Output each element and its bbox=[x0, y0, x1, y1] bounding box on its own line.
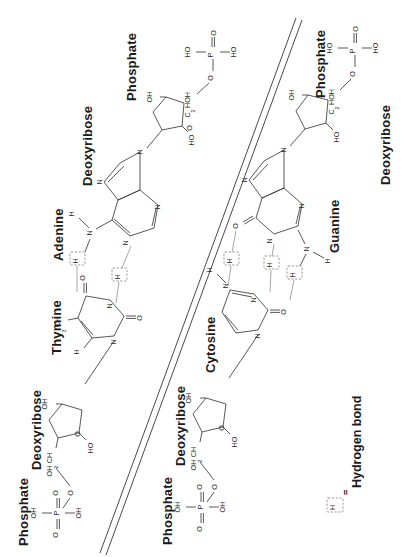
svg-text:OH: OH bbox=[74, 508, 83, 519]
svg-text:N: N bbox=[95, 179, 104, 184]
svg-text:H: H bbox=[265, 262, 274, 267]
svg-text:C: C bbox=[327, 109, 336, 114]
phosphate-group-top-left: O P HO HO O HOH 2 C bbox=[183, 30, 238, 118]
svg-text:P: P bbox=[206, 52, 215, 57]
phosphate-group-bottom-left: O P O O OH OH bbox=[29, 490, 83, 538]
label-phosphate-bottom-left: Phosphate bbox=[16, 478, 31, 546]
svg-text:N: N bbox=[153, 204, 162, 209]
label-phosphate-top-left: Phosphate bbox=[124, 33, 139, 101]
svg-text:O: O bbox=[66, 490, 75, 496]
svg-text:H: H bbox=[67, 211, 76, 216]
label-adenine: Adenine bbox=[51, 208, 66, 261]
svg-text:O: O bbox=[195, 526, 204, 532]
svg-text:O: O bbox=[51, 490, 60, 496]
legend-hydrogen-bond-symbol: H bbox=[327, 498, 343, 512]
svg-text:N: N bbox=[249, 297, 258, 302]
label-deoxyribose-top-right: Deoxyribose bbox=[378, 105, 393, 185]
svg-text:O: O bbox=[217, 425, 226, 431]
svg-text:O: O bbox=[78, 275, 87, 281]
svg-text:CH: CH bbox=[45, 453, 54, 463]
svg-text:P: P bbox=[348, 48, 357, 53]
svg-text:HO: HO bbox=[332, 131, 341, 142]
svg-text:O: O bbox=[51, 532, 60, 538]
label-guanine: Guanine bbox=[327, 200, 342, 253]
svg-text:O: O bbox=[279, 309, 288, 315]
legend-hydrogen-bond-text: Hydrogen bond bbox=[350, 396, 364, 488]
svg-text:HO: HO bbox=[187, 134, 196, 145]
svg-text:HO: HO bbox=[86, 442, 95, 453]
svg-text:O: O bbox=[206, 75, 215, 81]
svg-text:P: P bbox=[196, 504, 205, 509]
svg-text:O: O bbox=[348, 71, 357, 77]
svg-text:N: N bbox=[85, 230, 94, 235]
svg-text:O: O bbox=[209, 30, 218, 36]
svg-text:HO: HO bbox=[371, 42, 380, 53]
label-phosphate-top-right: Phosphate bbox=[313, 30, 328, 98]
svg-text:N: N bbox=[240, 177, 249, 182]
label-deoxyribose-bottom-right: Deoxyribose bbox=[173, 386, 188, 466]
thymine-base: N N O O CH 3 H bbox=[53, 275, 144, 384]
svg-text:HOH: HOH bbox=[327, 89, 336, 105]
svg-text:2: 2 bbox=[190, 109, 196, 112]
label-cytosine: Cytosine bbox=[203, 316, 218, 373]
svg-text:N: N bbox=[302, 246, 311, 251]
svg-text:N: N bbox=[279, 147, 288, 152]
svg-text:N: N bbox=[135, 149, 144, 154]
label-phosphate-bottom-right: Phosphate bbox=[160, 477, 175, 545]
svg-text:O: O bbox=[351, 26, 360, 32]
svg-text:OH: OH bbox=[145, 92, 154, 103]
svg-text:CH: CH bbox=[189, 447, 198, 457]
hydrogen-bond-adenine-thymine: H H bbox=[70, 246, 131, 303]
svg-text:O: O bbox=[231, 223, 240, 229]
svg-text:H: H bbox=[71, 258, 80, 263]
svg-text:O: O bbox=[73, 431, 82, 437]
svg-text:P: P bbox=[52, 510, 61, 515]
svg-text:O: O bbox=[135, 315, 144, 321]
hydrogen-bond-guanine-cytosine: H H H bbox=[224, 231, 302, 300]
svg-text:H: H bbox=[288, 272, 297, 277]
svg-text:HO: HO bbox=[230, 436, 239, 447]
svg-text:O: O bbox=[195, 484, 204, 490]
svg-text:H: H bbox=[72, 349, 81, 354]
svg-text:C: C bbox=[183, 112, 192, 117]
svg-text:OH: OH bbox=[45, 466, 54, 477]
dna-structure-figure: O P HO HO O HOH 2 C O OH HO bbox=[0, 0, 404, 557]
svg-text:N: N bbox=[221, 283, 230, 288]
svg-text:OH: OH bbox=[218, 502, 227, 513]
label-deoxyribose-bottom-left: Deoxyribose bbox=[29, 390, 44, 470]
label-deoxyribose-top-left: Deoxyribose bbox=[80, 106, 95, 186]
svg-text:N: N bbox=[121, 240, 130, 245]
svg-text:H: H bbox=[113, 274, 122, 279]
svg-text:H: H bbox=[323, 258, 332, 263]
svg-text:H: H bbox=[328, 505, 337, 510]
svg-text:N: N bbox=[265, 238, 274, 243]
svg-text:H: H bbox=[205, 267, 214, 272]
svg-text:N: N bbox=[105, 303, 114, 308]
legend-equals-sign: = bbox=[341, 490, 351, 495]
phosphate-group-bottom-right: O P O O OH OH bbox=[173, 484, 227, 532]
svg-text:OH: OH bbox=[189, 460, 198, 471]
phosphate-group-top-right: O P HO HO O HOH 2 C bbox=[325, 26, 380, 115]
svg-text:HO: HO bbox=[183, 46, 192, 57]
svg-text:H: H bbox=[225, 258, 234, 263]
svg-text:2: 2 bbox=[334, 106, 340, 109]
structure-canvas: O P HO HO O HOH 2 C O OH HO bbox=[0, 0, 404, 557]
svg-text:O: O bbox=[210, 484, 219, 490]
deoxyribose-ring-bottom-left: O OH HO CH 2 OH bbox=[40, 399, 95, 486]
svg-text:HO: HO bbox=[229, 46, 238, 57]
deoxyribose-ring-bottom-right: O OH HO CH 2 OH bbox=[184, 393, 239, 480]
guanine-base: N N N N O N H bbox=[231, 147, 332, 266]
svg-text:OH: OH bbox=[287, 90, 296, 101]
label-thymine: Thymine bbox=[49, 300, 64, 355]
svg-text:HOH: HOH bbox=[183, 92, 192, 108]
svg-text:N: N bbox=[297, 203, 306, 208]
